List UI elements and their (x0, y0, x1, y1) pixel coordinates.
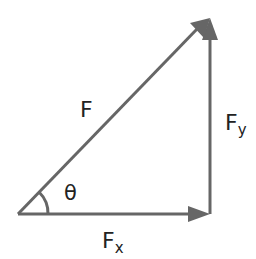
label-fx-main: F (102, 228, 115, 253)
f-resultant-vector (18, 18, 210, 214)
label-fy-subscript: y (238, 121, 247, 139)
angle-arc-icon (39, 192, 48, 214)
fy-vector (202, 18, 218, 214)
fx-arrowhead-icon (188, 206, 210, 222)
label-resultant-f: F (80, 99, 93, 121)
label-fy-main: F (225, 110, 238, 135)
label-theta: θ (64, 183, 77, 204)
label-fx-subscript: x (115, 239, 124, 257)
label-fx: Fx (102, 230, 124, 252)
label-fy: Fy (225, 112, 247, 134)
vector-diagram (0, 0, 256, 259)
